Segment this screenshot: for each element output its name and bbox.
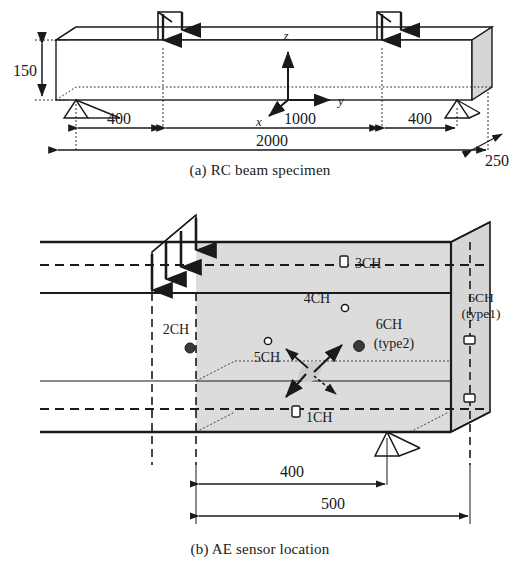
beam-body [56, 27, 492, 100]
beam-end-face [472, 27, 492, 100]
beam-top-face [56, 27, 492, 40]
dim-span-right-label: 400 [408, 110, 432, 127]
sensor-6ch-type1-label: 6CH [468, 290, 494, 305]
dim-span-left-label: 400 [107, 110, 131, 127]
caption-panel-a: (a) RC beam specimen [0, 162, 520, 179]
axis-x-label: x [255, 114, 262, 129]
figure-root: z y x 150 [0, 0, 520, 570]
sensor-6ch-type2-sublabel: (type2) [374, 336, 415, 352]
beam-front-face [56, 40, 472, 100]
distributed-load-b [152, 215, 196, 293]
dim-total-label: 2000 [256, 132, 288, 149]
cylinder-icon [340, 256, 348, 267]
axis-z-label: z [282, 28, 288, 43]
sensor-3ch-label: 3CH [355, 256, 381, 271]
panel-b-ae-sensor-location: 1CH 2CH 3CH 4CH 5CH 6CH (type2) [40, 215, 500, 524]
sensor-2ch[interactable]: 2CH [163, 322, 195, 353]
panel-a-beam-specimen: z y x 150 [13, 12, 509, 169]
rect-icon-upper [464, 336, 475, 344]
cylinder-icon [292, 406, 300, 417]
caption-panel-b: (b) AE sensor location [0, 541, 520, 558]
dim-height-label: 150 [13, 62, 37, 79]
axis-y-label: y [336, 93, 344, 108]
filled-circle-icon [185, 343, 195, 353]
support-right [445, 100, 480, 118]
open-circle-icon [264, 337, 271, 344]
dim-end-zone-label: 500 [321, 495, 345, 512]
dim-span-middle-label: 1000 [284, 110, 316, 127]
dimension-span-left-400: 400 [78, 110, 161, 128]
sensor-6ch-type1-sublabel: (type1) [462, 306, 501, 321]
sensor-4ch-label: 4CH [304, 291, 330, 306]
sensor-2ch-label: 2CH [163, 322, 189, 337]
sensor-6ch-type2-label: 6CH [376, 317, 402, 332]
filled-circle-icon [354, 341, 365, 352]
sensor-5ch-label: 5CH [254, 350, 280, 365]
dimension-end-zone-500: 500 [199, 495, 468, 516]
support-b [375, 432, 420, 485]
dim-sensor-zone-label: 400 [280, 463, 304, 480]
dimension-sensor-zone-400: 400 [199, 463, 385, 484]
load-profile-outline [152, 215, 196, 293]
figure-svg: z y x 150 [0, 0, 520, 570]
open-circle-icon [341, 304, 348, 311]
rect-icon-lower [464, 394, 475, 402]
dimension-span-right-400: 400 [385, 110, 455, 128]
sensor-1ch-label: 1CH [306, 410, 332, 425]
dimension-total-2000: 2000 [58, 132, 486, 150]
